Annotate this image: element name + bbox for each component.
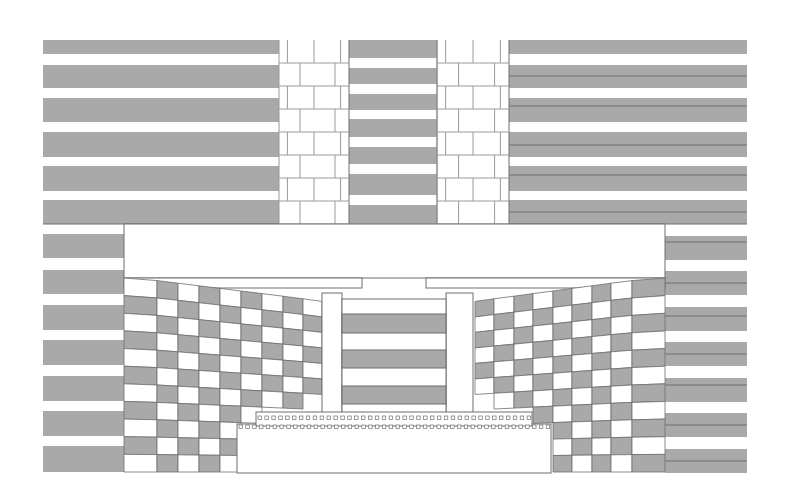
dentil: [471, 425, 475, 429]
dentil: [423, 425, 427, 429]
dentil: [457, 425, 461, 429]
dentil: [321, 425, 325, 429]
left-checker-tile: [283, 296, 303, 314]
dentil: [444, 425, 448, 429]
upper-left-stripe-band: [43, 166, 279, 191]
right-checker-tile: [514, 342, 533, 360]
dentil: [280, 425, 284, 429]
right-checker-tile: [611, 455, 632, 472]
center-panel-band: [342, 350, 446, 368]
right-checker-tile: [553, 355, 572, 373]
dentil: [348, 425, 352, 429]
base-opening: [237, 424, 551, 473]
right-checker-tile: [632, 366, 665, 385]
dentil: [512, 425, 516, 429]
dentil: [546, 425, 550, 429]
dentil: [320, 416, 324, 420]
left-checker-tile: [124, 454, 157, 472]
dentil: [294, 425, 298, 429]
right-checker-tile: [611, 368, 632, 387]
lower-left-stripe-band: [43, 270, 124, 294]
right-checker-tile: [475, 299, 494, 317]
upper-center-stripe-band: [349, 147, 437, 164]
dentil: [465, 416, 469, 420]
left-checker-tile: [124, 313, 157, 333]
left-checker-tile: [262, 375, 283, 392]
lower-right-stripe-band: [665, 236, 747, 260]
dentil: [287, 425, 291, 429]
lower-left-stripe-band: [43, 446, 124, 472]
lower-left-stripe-band: [43, 305, 124, 330]
right-checker-tile: [533, 324, 553, 342]
dentil: [355, 425, 359, 429]
left-checker-tile: [178, 438, 199, 455]
dentil: [430, 425, 434, 429]
upper-right-stripe-band: [509, 98, 747, 122]
left-checker-tile: [241, 390, 262, 407]
left-checker-tile: [157, 315, 178, 334]
dentil: [382, 425, 386, 429]
right-checker-tile: [572, 337, 592, 356]
right-checker-tile: [592, 438, 611, 455]
dentil: [348, 416, 352, 420]
left-checker-tile: [262, 358, 283, 376]
right-checker-tile: [533, 357, 553, 375]
dentil: [479, 416, 483, 420]
left-checker-tile: [220, 288, 241, 307]
right-checker-tile: [514, 326, 533, 344]
right-checker-tile: [572, 438, 592, 455]
right-checker-tile: [572, 354, 592, 372]
right-checker-tile: [553, 455, 572, 472]
right-checker-tile: [572, 421, 592, 438]
right-checker-tile: [632, 331, 665, 350]
right-checker-tile: [611, 385, 632, 403]
right-checker-tile: [494, 312, 514, 330]
left-checker-tile: [178, 421, 199, 439]
left-checker-tile: [124, 366, 157, 385]
left-checker-tile: [178, 283, 199, 303]
right-checker-tile: [611, 420, 632, 438]
lower-left-stripe-band: [43, 411, 124, 436]
right-checker-tile: [514, 375, 533, 392]
left-checker-tile: [283, 328, 303, 346]
dentil: [369, 425, 373, 429]
dentil: [498, 425, 502, 429]
left-checker-tile: [262, 342, 283, 360]
right-checker-tile: [514, 310, 533, 328]
dentil: [327, 416, 331, 420]
right-checker-tile: [475, 362, 494, 379]
left-checker-tile: [157, 420, 178, 438]
left-checker-tile: [283, 312, 303, 330]
dentil: [273, 425, 277, 429]
left-checker-tile: [157, 281, 178, 301]
upper-right-stripe-band: [509, 166, 747, 191]
right-checker-tile: [553, 422, 572, 439]
dentil: [505, 425, 509, 429]
right-checker-tile: [592, 369, 611, 387]
dentil: [246, 425, 250, 429]
right-checker-tile: [592, 421, 611, 439]
right-checker-tile: [632, 278, 665, 298]
dentil: [375, 416, 379, 420]
right-checker-tile: [592, 386, 611, 404]
upper-dentil-ledge: [256, 412, 532, 426]
right-checker-tile: [592, 352, 611, 371]
left-checker-tile: [124, 296, 157, 316]
dentil: [416, 425, 420, 429]
dentil: [313, 416, 317, 420]
dentil: [335, 425, 339, 429]
right-checker-tile: [494, 376, 514, 393]
left-checker-tile: [199, 370, 220, 388]
left-checker-tile: [220, 305, 241, 324]
lower-left-stripe-band: [43, 340, 124, 365]
dentil: [519, 425, 523, 429]
right-checker-tile: [553, 405, 572, 422]
right-checker-tile: [632, 349, 665, 368]
right-checker-tile: [475, 315, 494, 333]
right-checker-tile: [553, 372, 572, 390]
right-checker-tile: [533, 291, 553, 310]
dentil: [533, 425, 537, 429]
right-checker-tile: [553, 305, 572, 324]
left-checker-tile: [303, 362, 322, 379]
dentil: [451, 416, 455, 420]
